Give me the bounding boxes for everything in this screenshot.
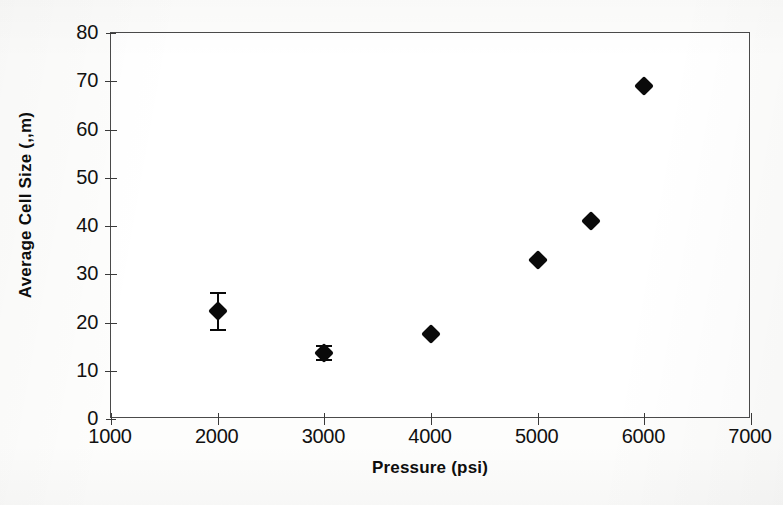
y-axis-tick-label: 70 (52, 70, 98, 90)
y-axis-tick-label: 40 (52, 215, 98, 235)
y-axis-tick-label: 80 (52, 22, 98, 42)
data-point-marker (581, 211, 601, 231)
x-axis-tick-label: 5000 (492, 426, 582, 446)
error-bar-cap-lower (210, 329, 226, 331)
y-axis-tick-label: 50 (52, 167, 98, 187)
y-axis-tick-label: 10 (52, 360, 98, 380)
y-axis-tick-label: 30 (52, 263, 98, 283)
data-point-marker (208, 301, 228, 321)
x-axis-tick-label: 1000 (65, 426, 155, 446)
x-axis-tick-label: 6000 (598, 426, 688, 446)
data-points-layer (111, 33, 749, 417)
chart-figure: 0102030405060708010002000300040005000600… (0, 0, 783, 505)
x-axis-tick-label: 3000 (278, 426, 368, 446)
error-bar-cap-upper (210, 292, 226, 294)
plot-area (110, 32, 750, 418)
data-point-marker (528, 250, 548, 270)
x-axis-tick-label: 4000 (385, 426, 475, 446)
x-axis-title: Pressure (psi) (110, 458, 750, 478)
y-axis-tick-label: 20 (52, 312, 98, 332)
data-point-marker (421, 324, 441, 344)
x-axis-tick-label: 2000 (172, 426, 262, 446)
y-axis-tick-label: 60 (52, 119, 98, 139)
x-axis-tick (751, 413, 752, 425)
y-axis-title: Average Cell Size (,,m) (16, 25, 36, 385)
data-point-marker (634, 76, 654, 96)
x-axis-tick-label: 7000 (705, 426, 783, 446)
